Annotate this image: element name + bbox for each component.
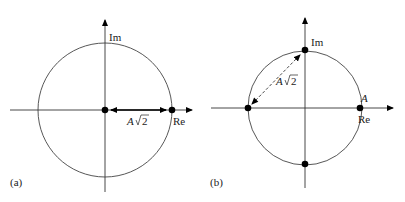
imag-axis-label-a: Im: [109, 31, 122, 43]
panel-label-a: (a): [10, 176, 23, 189]
real-axis-label-a: Re: [173, 115, 185, 127]
point-origin-a: [102, 107, 109, 114]
point-label-A-b: A: [360, 92, 368, 104]
distance-label-b-main: A: [275, 75, 283, 87]
panel-a: Im Re A 2 (a): [10, 20, 192, 192]
distance-label-a-main: A: [126, 115, 134, 127]
constellation-diagram: Im Re A 2 (a) Im Re A A 2 (b): [0, 0, 405, 202]
point-right-b: [357, 105, 364, 112]
panel-label-b: (b): [210, 176, 223, 189]
point-bottom-b: [302, 161, 309, 168]
imag-axis-label-b: Im: [311, 36, 324, 48]
distance-label-b: A 2: [275, 75, 298, 87]
distance-label-a-radicand: 2: [142, 115, 148, 127]
distance-label-b-radicand: 2: [291, 75, 297, 87]
distance-label-a: A 2: [126, 115, 149, 127]
point-real-a: [169, 107, 176, 114]
point-left-b: [245, 105, 252, 112]
panel-b: Im Re A A 2 (b): [210, 18, 393, 189]
point-top-b: [302, 47, 309, 54]
real-axis-label-b: Re: [358, 113, 370, 125]
